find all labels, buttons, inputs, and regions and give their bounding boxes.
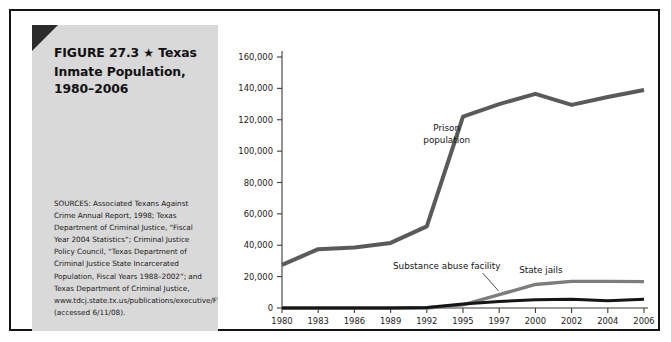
y-tick-label: 60,000: [244, 209, 273, 219]
series-label-prison-population-line2: population: [423, 135, 470, 145]
figure-number: FIGURE 27.3: [54, 45, 139, 60]
x-axis-ticks: 1980198319861989199219951997200020022004…: [271, 308, 654, 326]
y-tick-label: 100,000: [238, 146, 273, 156]
y-tick-label: 160,000: [238, 52, 273, 62]
y-tick-label: 140,000: [238, 83, 273, 93]
series-line-prison-population: [282, 90, 644, 265]
chart-plot-area: 020,00040,00060,00080,000100,000120,0001…: [226, 25, 656, 331]
series-line-substance-abuse-facility: [282, 299, 644, 308]
x-tick-label: 1992: [416, 316, 437, 326]
series-label-prison-population: Prison: [433, 123, 460, 133]
x-tick-label: 1989: [380, 316, 401, 326]
figure-title-word: Texas: [158, 45, 196, 60]
x-tick-label: 1986: [344, 316, 365, 326]
x-tick-label: 2000: [525, 316, 546, 326]
star-icon: ★: [143, 46, 154, 60]
y-tick-label: 0: [268, 303, 273, 313]
chart-series-group: [282, 90, 644, 308]
y-tick-label: 120,000: [238, 115, 273, 125]
figure-title-line3: 1980–2006: [54, 81, 128, 96]
x-tick-label: 2004: [597, 316, 618, 326]
x-tick-label: 2002: [561, 316, 582, 326]
x-tick-label: 1995: [452, 316, 473, 326]
line-chart-svg: 020,00040,00060,00080,000100,000120,0001…: [226, 25, 656, 331]
series-label-substance-abuse-facility: Substance abuse facility: [393, 261, 500, 271]
y-tick-label: 80,000: [244, 178, 273, 188]
figure-sources: SOURCES: Associated Texans Against Crime…: [54, 198, 210, 319]
series-label-state-jails: State jails: [519, 265, 563, 275]
x-tick-label: 1980: [271, 316, 292, 326]
caption-panel: FIGURE 27.3 ★ Texas Inmate Population, 1…: [32, 25, 218, 331]
chart-series-labels: PrisonpopulationState jailsSubstance abu…: [393, 123, 563, 291]
substance-abuse-leader-line: [483, 273, 499, 291]
figure-title-line2: Inmate Population,: [54, 64, 186, 79]
y-axis-ticks: 020,00040,00060,00080,000100,000120,0001…: [238, 52, 282, 313]
y-tick-label: 40,000: [244, 240, 273, 250]
x-tick-label: 2006: [633, 316, 654, 326]
x-tick-label: 1983: [308, 316, 329, 326]
figure-title: FIGURE 27.3 ★ Texas Inmate Population, 1…: [54, 44, 206, 98]
y-tick-label: 20,000: [244, 272, 273, 282]
x-tick-label: 1997: [489, 316, 510, 326]
figure-frame: FIGURE 27.3 ★ Texas Inmate Population, 1…: [9, 9, 660, 331]
